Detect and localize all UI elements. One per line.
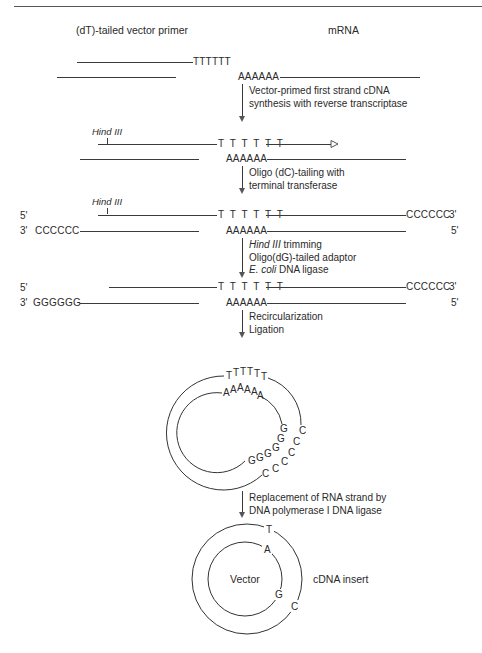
circle2-inner-A: A: [264, 544, 271, 556]
circle2-outer-T: T: [266, 524, 272, 536]
cdna-insert-label: cDNA insert: [313, 573, 368, 585]
circle2-inner-G: G: [275, 589, 283, 601]
vector-label: Vector: [230, 573, 260, 585]
circle2-outer-C: C: [291, 601, 298, 613]
final-plasmid: [0, 0, 482, 653]
